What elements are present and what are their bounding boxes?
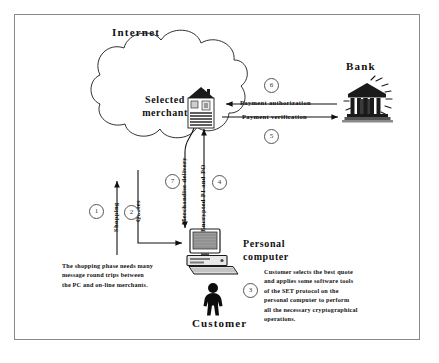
shopping-phase-note: The shopping phase needs many message ro… (62, 261, 202, 289)
bank-building-icon (342, 76, 393, 123)
payment-verification-label: Payment verification (242, 113, 307, 120)
step-marker-3: 3 (243, 283, 258, 298)
diagram-canvas: Internet Selected merchant Bank Personal… (0, 0, 439, 363)
step-marker-4: 4 (212, 175, 227, 190)
shopping-label: Shopping (112, 202, 119, 232)
set-note-line5: all the necessary cryptographical (264, 305, 404, 314)
encrypted-pi-po-label: Encrypted PI and PO (199, 164, 206, 232)
set-protocol-note: Customer selects the best quote and appl… (264, 267, 404, 323)
merchandise-delivery-label: Merchandise delivery (180, 157, 187, 225)
set-note-line6: operations. (264, 314, 404, 323)
set-note-line3: of the SET protocol on the (264, 286, 404, 295)
selected-merchant-label: Selected merchant (139, 93, 191, 119)
person-icon (204, 283, 223, 316)
customer-label: Customer (192, 317, 247, 329)
cloud-icon (91, 30, 247, 138)
merchant-label-line1: Selected (145, 94, 185, 105)
set-note-line2: and applies some software tools (264, 276, 404, 285)
shopping-note-line2: message round trips between (62, 270, 202, 279)
step-marker-2: 2 (124, 205, 139, 220)
internet-label: Internet (112, 26, 160, 38)
set-note-line4: personal computer to perform (264, 295, 404, 304)
step-marker-5: 5 (264, 129, 279, 144)
pc-label-line1: Personal (243, 238, 285, 249)
payment-authorization-label: Payment authorization (240, 99, 311, 106)
step-marker-7: 7 (165, 174, 180, 189)
shopping-note-line3: the PC and on-line merchants. (62, 280, 202, 289)
shopping-note-line1: The shopping phase needs many (62, 261, 202, 270)
set-note-line1: Customer selects the best quote (264, 267, 404, 276)
personal-computer-label: Personal computer (243, 237, 303, 263)
pc-label-line2: computer (243, 251, 289, 262)
bank-label: Bank (346, 60, 376, 72)
step-marker-1: 1 (89, 204, 104, 219)
step-marker-6: 6 (264, 78, 279, 93)
merchant-label-line2: merchant (142, 107, 188, 118)
